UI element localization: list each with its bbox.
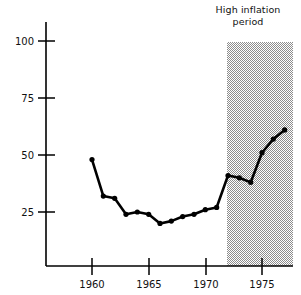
data-point [146,212,151,217]
data-point [259,150,264,155]
data-point [169,219,174,224]
data-point [180,214,185,219]
chart-canvas: 25 50 75 100 1960 1965 1970 1975 [0,0,301,295]
x-tick-label-1975: 1975 [249,279,274,290]
data-point [271,136,276,141]
chart-figure: 25 50 75 100 1960 1965 1970 1975 High in… [0,0,301,295]
y-tick-label-75: 75 [21,93,34,104]
data-point [203,207,208,212]
data-point [237,175,242,180]
data-point [101,193,106,198]
data-point [135,209,140,214]
y-tick-label-100: 100 [15,36,34,47]
annotation-line-2: period [200,16,296,28]
y-tick-label-50: 50 [21,150,34,161]
y-axis-tick-labels: 25 50 75 100 [15,36,34,218]
data-point [112,196,117,201]
data-point [248,180,253,185]
annotation-high-inflation-period: High inflation period [200,4,296,27]
data-point [225,173,230,178]
data-point [282,127,287,132]
annotation-line-1: High inflation [200,4,296,16]
x-tick-label-1970: 1970 [193,279,218,290]
y-tick-label-25: 25 [21,207,34,218]
data-point [214,205,219,210]
data-point [157,221,162,226]
data-point [89,157,94,162]
x-tick-label-1965: 1965 [136,279,161,290]
data-point [191,212,196,217]
x-axis-tick-labels: 1960 1965 1970 1975 [79,279,274,290]
x-tick-label-1960: 1960 [79,279,104,290]
data-point [123,212,128,217]
